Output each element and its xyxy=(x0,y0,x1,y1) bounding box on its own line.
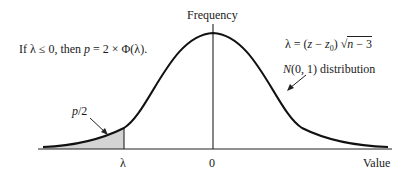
condition-text: If λ ≤ 0, then p = 2 × Φ(λ). xyxy=(19,43,147,55)
distribution-N: N xyxy=(283,62,291,76)
distribution-label: N(0, 1) distribution xyxy=(283,63,375,75)
lambda-tick-label: λ xyxy=(120,157,126,169)
normal-distribution-diagram xyxy=(0,0,413,180)
x-axis-label: Value xyxy=(363,157,390,169)
shaded-rest: /2 xyxy=(78,104,87,118)
zero-tick-label: 0 xyxy=(209,157,215,169)
condition-rest: = 2 × Φ(λ). xyxy=(90,42,147,56)
lambda-formula: λ = (z − z0) √n − 3 xyxy=(285,38,372,53)
shaded-area-label: p/2 xyxy=(72,105,87,117)
y-axis-label: Frequency xyxy=(187,9,238,21)
formula-lhs: λ = ( xyxy=(285,37,308,51)
condition-prefix: If λ ≤ 0, then xyxy=(19,42,84,56)
formula-tail: − 3 xyxy=(353,37,372,51)
distribution-arrow xyxy=(290,75,306,88)
distribution-rest: (0, 1) distribution xyxy=(291,62,375,76)
formula-minus: − xyxy=(312,37,325,51)
formula-close: ) xyxy=(334,37,341,51)
